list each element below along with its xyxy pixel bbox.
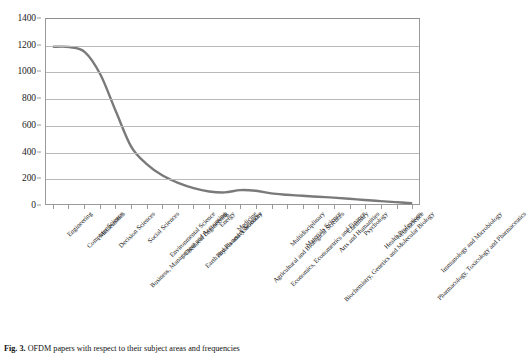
x-axis-tick-mark xyxy=(318,205,319,209)
x-axis-category-label: Mathematics xyxy=(97,210,126,239)
x-axis-tick-mark xyxy=(272,205,273,209)
x-axis-tick-mark xyxy=(53,205,54,209)
gridline xyxy=(46,153,419,154)
y-axis-tick-mark xyxy=(37,71,41,72)
figure-number: Fig. 3. xyxy=(4,344,26,353)
x-axis-tick-mark xyxy=(350,205,351,209)
gridline xyxy=(46,46,419,47)
x-axis-tick-mark xyxy=(68,205,69,209)
y-axis-tick-mark xyxy=(37,151,41,152)
y-axis-tick-mark xyxy=(37,124,41,125)
x-axis-tick-mark xyxy=(225,205,226,209)
x-axis-tick-mark xyxy=(397,205,398,209)
gridline xyxy=(46,99,419,100)
x-axis-tick-mark xyxy=(131,205,132,209)
y-axis-tick-mark xyxy=(37,205,41,206)
x-axis-tick-mark xyxy=(287,205,288,209)
x-axis-tick-mark xyxy=(365,205,366,209)
y-axis: 0200400600800100012001400 xyxy=(0,18,41,205)
gridline xyxy=(46,179,419,180)
y-axis-tick-mark xyxy=(37,98,41,99)
x-axis-tick-mark xyxy=(115,205,116,209)
x-axis-tick-mark xyxy=(100,205,101,209)
gridline xyxy=(46,126,419,127)
y-axis-tick-mark xyxy=(37,18,41,19)
y-axis-tick-label: 600 xyxy=(22,120,36,130)
figure-caption: Fig. 3. OFDM papers with respect to thei… xyxy=(4,344,444,353)
x-axis-tick-mark xyxy=(178,205,179,209)
x-axis-tick-mark xyxy=(193,205,194,209)
x-axis-tick-mark xyxy=(84,205,85,209)
x-axis-tick-mark xyxy=(334,205,335,209)
y-axis-tick-mark xyxy=(37,44,41,45)
y-axis-tick-label: 400 xyxy=(22,147,36,157)
x-axis-tick-mark xyxy=(209,205,210,209)
y-axis-tick-label: 200 xyxy=(22,173,36,183)
y-axis-tick-label: 1400 xyxy=(17,13,36,23)
x-axis-tick-mark xyxy=(147,205,148,209)
y-axis-tick-label: 1200 xyxy=(17,40,36,50)
y-axis-tick-label: 1000 xyxy=(17,66,36,76)
y-axis-tick-label: 0 xyxy=(31,200,36,210)
x-axis-category-label: Pharmacology, Toxicology and Pharmaceuti… xyxy=(435,210,526,301)
x-axis-tick-mark xyxy=(256,205,257,209)
y-axis-tick-label: 800 xyxy=(22,93,36,103)
x-axis-labels: EngineeringComputer ScienceMathematicsDe… xyxy=(0,210,448,335)
x-axis-category-label: Engineering xyxy=(65,210,93,238)
gridline xyxy=(46,72,419,73)
plot-area xyxy=(45,18,420,205)
figure-caption-text: OFDM papers with respect to their subjec… xyxy=(28,344,240,353)
x-axis-tick-mark xyxy=(381,205,382,209)
x-axis-tick-mark xyxy=(412,205,413,209)
x-axis-tick-mark xyxy=(303,205,304,209)
x-axis-tick-mark xyxy=(240,205,241,209)
y-axis-tick-mark xyxy=(37,178,41,179)
x-axis-tick-mark xyxy=(162,205,163,209)
